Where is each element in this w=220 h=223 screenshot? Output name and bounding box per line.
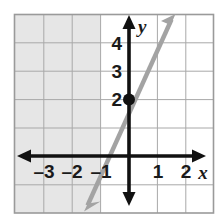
shaded-region [15, 15, 101, 214]
graph-canvas: 4 3 2 –3 –2 –1 1 2 y x [0, 0, 220, 223]
y-axis-label: y [136, 16, 147, 37]
x-axis-label: x [197, 162, 208, 183]
coordinate-plane-figure: 4 3 2 –3 –2 –1 1 2 y x [0, 0, 220, 223]
y-tick-label-2: 2 [111, 89, 122, 110]
x-tick-label--2: –2 [61, 161, 82, 182]
x-tick-label-2: 2 [181, 161, 192, 182]
y-tick-label-4: 4 [111, 33, 122, 54]
data-point-marker [123, 94, 135, 106]
y-tick-label-3: 3 [111, 61, 122, 82]
x-tick-label--3: –3 [33, 161, 54, 182]
x-tick-label-1: 1 [153, 161, 164, 182]
x-tick-label--1: –1 [90, 161, 112, 182]
